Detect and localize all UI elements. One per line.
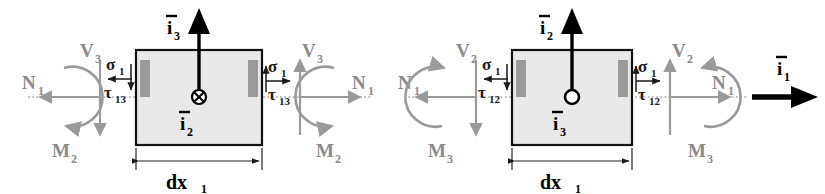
stress-resultant-figure: N 1 V 3 M 2 σ 1 τ 13 σ 1 τ 13 N 1 V 3 M …: [0, 0, 825, 194]
right-panel-left-face-shear-force-subscript: 2: [471, 52, 477, 66]
diagram-canvas: N 1 V 3 M 2 σ 1 τ 13 σ 1 τ 13 N 1 V 3 M …: [0, 0, 825, 194]
left-face-shear-stress-label: τ: [104, 83, 112, 102]
basis-vector-i3-arrowhead: [188, 8, 210, 34]
basis-vector-i2-up-label: i: [540, 17, 545, 38]
right-face-stress-bar: [248, 60, 258, 97]
right-panel-left-face-shear-force-label: V: [456, 40, 470, 61]
left-face-moment-subscript: 2: [71, 152, 77, 166]
right-panel-left-face-shear-stress-subscript: 12: [489, 93, 501, 105]
basis-vector-i3-center-label: i: [553, 113, 558, 134]
right-face-shear-force-label: V: [302, 40, 316, 61]
basis-vector-i1-arrowhead: [791, 86, 818, 108]
right-face-shear-stress-subscript: 13: [279, 95, 291, 107]
right-face-moment-subscript: 2: [335, 152, 341, 166]
right-panel-left-face-normal-stress-label: σ: [482, 55, 492, 74]
right-panel-left-face-shear-stress-label: τ: [478, 83, 486, 102]
basis-vector-i2-subscript: 2: [187, 125, 193, 139]
right-face-moment-label: M: [316, 140, 334, 161]
basis-vector-i2-up-subscript: 2: [547, 29, 553, 43]
left-face-shear-force-subscript: 3: [95, 52, 101, 66]
left-dimension-subscript: 1: [201, 182, 207, 194]
right-panel-right-face-shear-stress-subscript: 12: [649, 95, 661, 107]
basis-vector-i2-label: i: [180, 113, 185, 134]
right-panel: N 1 V 2 M 3 σ 1 τ 12 σ 1 τ 12 N 1 V 2 M …: [398, 8, 818, 194]
right-face-shear-force-subscript: 3: [317, 52, 323, 66]
right-panel-right-face-shear-stress-label: τ: [638, 85, 646, 104]
right-panel-right-face-normal-stress-label: σ: [638, 57, 648, 76]
left-face-moment-label: M: [52, 140, 70, 161]
right-panel-right-face-moment-label: M: [688, 140, 706, 161]
left-dimension-label: dx: [166, 171, 187, 193]
out-of-page-circle-icon: [565, 90, 579, 104]
left-face-stress-bar: [140, 60, 150, 97]
right-panel-left-face-moment-subscript: 3: [447, 152, 453, 166]
right-panel-right-face-shear-force-subscript: 2: [687, 52, 693, 66]
right-face-axial-force-label: N: [352, 72, 366, 93]
right-panel-left-face-normal-stress-subscript: 1: [495, 65, 501, 77]
right-panel-right-face-axial-force-label: N: [712, 72, 726, 93]
left-face-axial-force-subscript: 1: [38, 84, 44, 98]
left-face-axial-force-label: N: [22, 72, 36, 93]
right-panel-right-face-normal-stress-subscript: 1: [651, 67, 657, 79]
right-dimension-label: dx: [540, 171, 561, 193]
basis-vector-i1-subscript: 1: [784, 70, 790, 84]
right-panel-right-face-stress-bar: [618, 60, 628, 97]
right-panel-left-face-moment-label: M: [428, 140, 446, 161]
left-face-normal-stress-label: σ: [106, 55, 116, 74]
right-panel-left-face-stress-bar: [516, 60, 526, 97]
right-panel-right-face-axial-force-subscript: 1: [728, 84, 734, 98]
right-face-normal-stress-subscript: 1: [281, 67, 287, 79]
right-panel-right-face-shear-force-label: V: [672, 40, 686, 61]
right-panel-left-face-axial-force-subscript: 1: [414, 84, 420, 98]
right-face-normal-stress-label: σ: [268, 57, 278, 76]
basis-vector-i3-label: i: [167, 17, 172, 38]
basis-vector-i2-up-arrowhead: [561, 8, 583, 34]
left-face-shear-force-label: V: [80, 40, 94, 61]
left-face-shear-stress-subscript: 13: [115, 93, 127, 105]
right-dimension-subscript: 1: [575, 182, 581, 194]
right-face-axial-force-subscript: 1: [368, 84, 374, 98]
right-face-shear-stress-label: τ: [268, 85, 276, 104]
basis-vector-i3-center-subscript: 3: [560, 125, 566, 139]
basis-vector-i1-label: i: [777, 58, 782, 79]
basis-vector-i3-subscript: 3: [174, 29, 180, 43]
right-panel-right-face-moment-subscript: 3: [707, 152, 713, 166]
left-face-normal-stress-subscript: 1: [119, 65, 125, 77]
left-panel: N 1 V 3 M 2 σ 1 τ 13 σ 1 τ 13 N 1 V 3 M …: [22, 8, 374, 194]
